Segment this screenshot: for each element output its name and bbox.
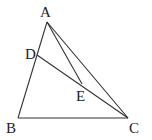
label-D: D xyxy=(25,46,36,62)
label-A: A xyxy=(40,4,51,20)
label-C: C xyxy=(129,120,139,136)
label-E: E xyxy=(76,88,85,104)
triangle-diagram: A B C D E xyxy=(0,0,152,140)
label-B: B xyxy=(6,120,16,136)
segment-AB xyxy=(18,22,47,118)
